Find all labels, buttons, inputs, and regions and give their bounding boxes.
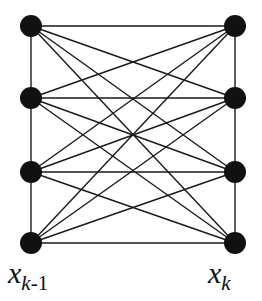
- left-column-label: xk-1: [8, 258, 48, 288]
- graph-node[interactable]: [20, 87, 42, 109]
- graph-node[interactable]: [20, 15, 42, 37]
- right-label-sub-main: k: [221, 271, 230, 295]
- graph-node[interactable]: [224, 15, 246, 37]
- figure-canvas: xk-1 xk: [0, 0, 262, 301]
- cross-edge-layer: [31, 26, 235, 243]
- left-label-sub-main: k: [21, 271, 30, 295]
- right-label-subscript: k: [221, 271, 230, 295]
- graph-node[interactable]: [224, 161, 246, 183]
- bipartite-graph-svg: [0, 0, 262, 301]
- left-label-base: x: [8, 256, 21, 289]
- graph-node[interactable]: [20, 161, 42, 183]
- right-label-base: x: [208, 256, 221, 289]
- graph-node[interactable]: [20, 232, 42, 254]
- left-label-sub-suffix: -1: [31, 271, 49, 295]
- graph-node[interactable]: [224, 87, 246, 109]
- graph-node[interactable]: [224, 232, 246, 254]
- left-label-subscript: k-1: [21, 271, 48, 295]
- right-column-label: xk: [208, 258, 231, 288]
